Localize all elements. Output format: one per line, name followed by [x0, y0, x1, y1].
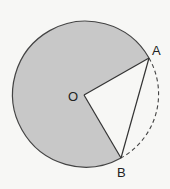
label-b: B [117, 165, 126, 180]
label-o: O [68, 89, 78, 104]
chord-ab [121, 58, 149, 158]
circle-sector-diagram: O A B [0, 0, 170, 189]
label-a: A [152, 43, 161, 58]
minor-arc-dashed [121, 58, 159, 158]
